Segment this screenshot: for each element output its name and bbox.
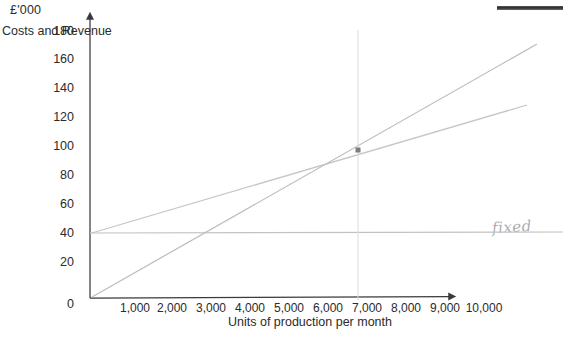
breakeven-point-marker	[356, 148, 361, 153]
revenue-line	[92, 44, 537, 297]
chart-canvas	[0, 0, 569, 341]
x-axis	[90, 297, 452, 299]
total-cost-line	[90, 105, 527, 234]
breakeven-chart: £'000 Costs and Revenue Units of product…	[0, 0, 569, 341]
fixed-cost-line	[90, 232, 563, 233]
